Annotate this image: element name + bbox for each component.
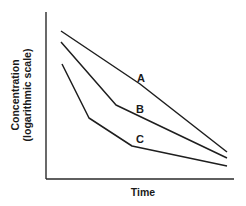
series-line-b — [61, 42, 227, 158]
line-chart: A B C Time Concentration (logarithmic sc… — [0, 0, 246, 206]
x-axis-label: Time — [131, 186, 155, 198]
series-label-b: B — [136, 103, 144, 115]
y-axis-label-line2: (logarithmic scale) — [21, 49, 33, 142]
series-label-c: C — [136, 133, 144, 145]
y-axis-label: Concentration (logarithmic scale) — [9, 49, 33, 142]
series-label-a: A — [137, 72, 145, 84]
series-line-a — [61, 31, 227, 152]
y-axis-label-line1: Concentration — [9, 59, 21, 130]
